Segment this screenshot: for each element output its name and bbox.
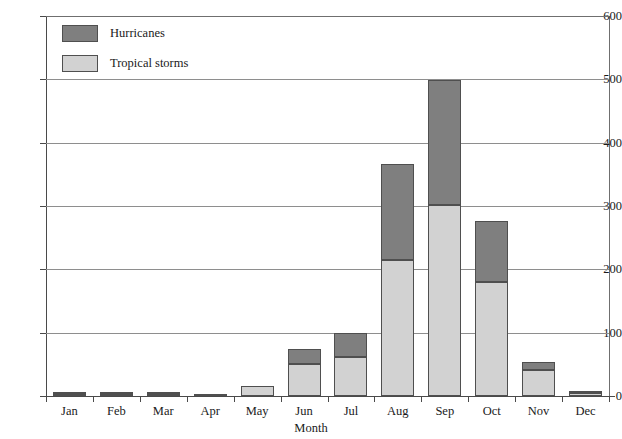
chart-legend: HurricanesTropical storms: [62, 22, 247, 82]
x-tick-mark-4: [234, 396, 235, 402]
bar-group-dec[interactable]: [569, 16, 602, 396]
bar-segment-hurricanes-jan[interactable]: [53, 392, 86, 394]
bar-segment-tropical-storms-dec[interactable]: [569, 393, 602, 396]
bar-segment-tropical-storms-nov[interactable]: [522, 370, 555, 396]
x-tick-label-aug: Aug: [374, 404, 421, 419]
legend-label: Tropical storms: [110, 57, 188, 70]
bar-segment-tropical-storms-jul[interactable]: [334, 357, 367, 396]
bar-group-jul[interactable]: [334, 16, 367, 396]
x-tick-mark-1: [93, 396, 94, 402]
x-tick-label-may: May: [234, 404, 281, 419]
x-tick-mark-3: [187, 396, 188, 402]
bar-segment-tropical-storms-oct[interactable]: [475, 282, 508, 396]
bar-segment-hurricanes-jun[interactable]: [288, 349, 321, 364]
x-tick-label-nov: Nov: [515, 404, 562, 419]
x-tick-mark-0: [46, 396, 47, 402]
legend-item-hurricanes[interactable]: Hurricanes: [62, 22, 247, 44]
bar-segment-hurricanes-mar[interactable]: [147, 392, 180, 394]
bar-segment-tropical-storms-sep[interactable]: [428, 205, 461, 396]
legend-swatch-icon: [62, 55, 98, 72]
bar-segment-tropical-storms-may[interactable]: [241, 386, 274, 396]
legend-swatch-icon: [62, 25, 98, 42]
bar-segment-hurricanes-jul[interactable]: [334, 333, 367, 358]
legend-item-tropical-storms[interactable]: Tropical storms: [62, 52, 247, 74]
bar-group-oct[interactable]: [475, 16, 508, 396]
x-tick-label-jun: Jun: [281, 404, 328, 419]
bar-segment-hurricanes-feb[interactable]: [100, 392, 133, 394]
x-tick-mark-6: [328, 396, 329, 402]
bar-segment-hurricanes-oct[interactable]: [475, 221, 508, 282]
x-tick-label-apr: Apr: [187, 404, 234, 419]
x-tick-label-sep: Sep: [421, 404, 468, 419]
x-tick-mark-11: [562, 396, 563, 402]
bar-segment-hurricanes-aug[interactable]: [381, 164, 414, 261]
bar-segment-tropical-storms-apr[interactable]: [194, 394, 227, 396]
x-tick-mark-8: [421, 396, 422, 402]
bar-group-jun[interactable]: [288, 16, 321, 396]
bar-segment-tropical-storms-jun[interactable]: [288, 364, 321, 396]
bar-group-aug[interactable]: [381, 16, 414, 396]
legend-label: Hurricanes: [110, 27, 165, 40]
x-tick-mark-5: [281, 396, 282, 402]
bar-segment-hurricanes-nov[interactable]: [522, 362, 555, 370]
x-tick-label-oct: Oct: [468, 404, 515, 419]
x-tick-label-jul: Jul: [328, 404, 375, 419]
bar-segment-tropical-storms-jan[interactable]: [53, 394, 86, 396]
x-tick-label-feb: Feb: [93, 404, 140, 419]
x-tick-mark-7: [374, 396, 375, 402]
x-tick-mark-2: [140, 396, 141, 402]
x-tick-mark-12: [609, 396, 610, 402]
x-tick-label-mar: Mar: [140, 404, 187, 419]
x-axis-title: Month: [0, 421, 622, 436]
bar-segment-tropical-storms-mar[interactable]: [147, 394, 180, 396]
bar-segment-tropical-storms-aug[interactable]: [381, 260, 414, 396]
x-tick-mark-9: [468, 396, 469, 402]
stacked-bar-chart: Number Month 0100200300400500600 JanFebM…: [0, 0, 622, 439]
x-tick-label-jan: Jan: [46, 404, 93, 419]
bar-group-sep[interactable]: [428, 16, 461, 396]
bar-segment-tropical-storms-feb[interactable]: [100, 394, 133, 396]
bar-segment-hurricanes-sep[interactable]: [428, 80, 461, 205]
bar-segment-hurricanes-dec[interactable]: [569, 391, 602, 393]
x-tick-label-dec: Dec: [562, 404, 609, 419]
x-tick-mark-10: [515, 396, 516, 402]
bar-group-nov[interactable]: [522, 16, 555, 396]
